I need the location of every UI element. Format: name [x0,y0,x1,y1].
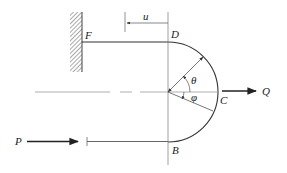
theta-arc [183,76,190,92]
label-Q: Q [262,85,270,97]
label-B: B [172,144,179,156]
label-D: D [170,28,179,40]
radius-theta [168,57,203,92]
label-phi: φ [191,91,197,103]
semicircular-bar-diagram: u θ φ F D C B Q P [0,0,287,173]
label-C: C [220,94,228,106]
label-theta: θ [191,74,197,86]
label-u: u [143,10,149,22]
label-F: F [84,29,92,41]
fixed-wall [70,12,82,72]
label-P: P [14,135,22,147]
